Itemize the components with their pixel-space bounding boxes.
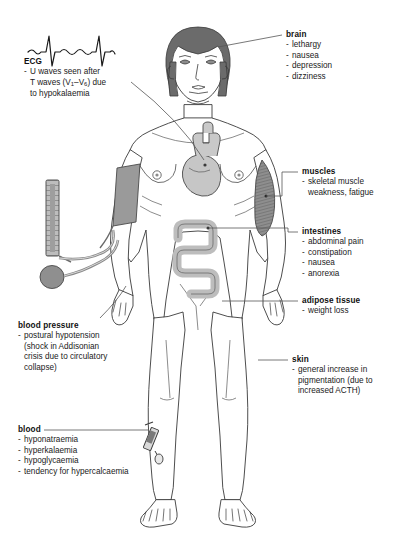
callout-ecg-line2e: ) due [87, 78, 106, 87]
list-item: abdominal pain [302, 237, 394, 248]
callout-ecg-body: -U waves seen after T waves (V1–V6) due … [24, 67, 152, 100]
callout-brain: brain lethargy nausea depression dizzine… [286, 29, 394, 82]
callout-skin-list: general increase in pigmentation (due to… [292, 365, 394, 397]
callout-ecg-line2c: –V [74, 78, 84, 87]
list-item: hyperkalaemia [18, 446, 168, 457]
addisons-disease-diagram: ECG -U waves seen after T waves (V1–V6) … [0, 0, 397, 544]
callout-adipose-tissue: adipose tissue weight loss [302, 295, 394, 317]
list-item: depression [286, 61, 394, 72]
list-item: constipation [302, 248, 394, 259]
list-item: lethargy [286, 40, 394, 51]
callout-blood-pressure-list: postural hypotension (shock in Addisonia… [18, 331, 146, 373]
list-item: nausea [302, 258, 394, 269]
callout-ecg-line2a: T waves (V [30, 78, 71, 87]
callout-blood-pressure: blood pressure postural hypotension (sho… [18, 320, 146, 373]
list-item: hypoglycaemia [18, 456, 168, 467]
callout-blood: blood hyponatraemia hyperkalaemia hypogl… [18, 424, 168, 477]
sphygmomanometer [40, 180, 118, 289]
callout-intestines-list: abdominal pain constipation nausea anore… [302, 237, 394, 279]
callout-adipose-list: weight loss [302, 306, 394, 317]
callout-ecg-heading: ECG [24, 56, 152, 67]
list-item: hyponatraemia [18, 435, 168, 446]
callout-ecg: ECG -U waves seen after T waves (V1–V6) … [24, 56, 152, 100]
callout-brain-heading: brain [286, 29, 394, 40]
list-item: weight loss [302, 306, 394, 317]
callout-blood-pressure-heading: blood pressure [18, 320, 146, 331]
list-item: nausea [286, 51, 394, 62]
callout-skin-heading: skin [292, 354, 394, 365]
callout-blood-heading: blood [18, 424, 168, 435]
callout-ecg-line3: to hypokalaemia [30, 89, 90, 98]
list-item: anorexia [302, 269, 394, 280]
callout-ecg-line1: U waves seen after [30, 67, 100, 76]
callout-blood-list: hyponatraemia hyperkalaemia hypoglycaemi… [18, 435, 168, 477]
callout-skin: skin general increase in pigmentation (d… [292, 354, 394, 397]
callout-muscles-list: skeletal muscle weakness, fatigue [302, 177, 394, 198]
callout-intestines: intestines abdominal pain constipation n… [302, 226, 394, 279]
list-item: general increase in pigmentation (due to… [292, 365, 394, 397]
callout-muscles-heading: muscles [302, 166, 394, 177]
callout-muscles: muscles skeletal muscle weakness, fatigu… [302, 166, 394, 198]
callout-brain-list: lethargy nausea depression dizziness [286, 40, 394, 82]
callout-intestines-heading: intestines [302, 226, 394, 237]
leader-brain [218, 35, 282, 47]
list-item: dizziness [286, 72, 394, 83]
intestines-organ [177, 224, 215, 294]
list-item: postural hypotension (shock in Addisonia… [18, 331, 146, 373]
list-item: tendency for hypercalcaemia [18, 467, 168, 478]
callout-adipose-heading: adipose tissue [302, 295, 394, 306]
list-item: skeletal muscle weakness, fatigue [302, 177, 394, 198]
